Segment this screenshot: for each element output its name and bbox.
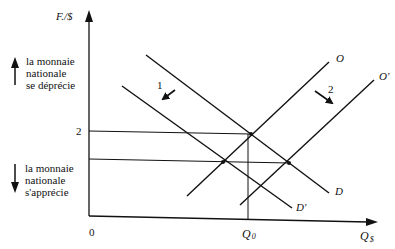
x-axis-label: Q$	[360, 229, 374, 244]
depreciation-line-3: se déprécie	[26, 79, 75, 91]
supply-curve-O	[187, 62, 329, 196]
y-axis-label: F./$	[55, 10, 73, 22]
demand-curve-D-prime	[122, 86, 292, 208]
equilibrium-point-initial	[249, 132, 253, 136]
q0-label: Q0	[242, 227, 256, 241]
depreciation-annotation: la monnaie nationale se déprécie	[26, 55, 75, 91]
origin-label: 0	[89, 226, 95, 238]
demand-label-D-prime: D'	[295, 201, 307, 213]
price-2-guide-line	[89, 131, 251, 134]
exchange-rate-diagram: F./$ 0 2 Q0 Q$ O O' D D' 1 2	[0, 0, 395, 249]
new-price-guide-line	[89, 159, 289, 163]
y-axis-arrowhead	[85, 10, 93, 22]
demand-shift-arrow	[163, 90, 175, 99]
y-tick-label-2: 2	[76, 125, 82, 137]
appreciation-line-2: nationale	[25, 174, 74, 186]
appreciation-annotation: la monnaie nationale s'apprécie	[25, 162, 74, 198]
supply-label-O-prime: O'	[379, 70, 390, 82]
depreciation-line-1: la monnaie	[26, 55, 75, 67]
depreciation-arrowhead	[11, 57, 19, 68]
demand-curve-D	[146, 55, 329, 193]
appreciation-line-3: s'apprécie	[25, 186, 74, 198]
appreciation-arrowhead	[11, 182, 19, 193]
demand-shift-label: 1	[157, 79, 163, 91]
appreciation-line-1: la monnaie	[25, 162, 74, 174]
equilibrium-point-supply-shift	[287, 161, 291, 165]
supply-shift-label: 2	[328, 83, 334, 95]
supply-label-O: O	[336, 52, 344, 64]
supply-curve-O-prime	[240, 80, 374, 205]
x-axis	[89, 216, 368, 222]
x-axis-arrowhead	[366, 218, 378, 226]
equilibrium-point-demand-shift	[221, 160, 225, 164]
depreciation-line-2: nationale	[26, 67, 75, 79]
demand-label-D: D	[334, 185, 343, 197]
